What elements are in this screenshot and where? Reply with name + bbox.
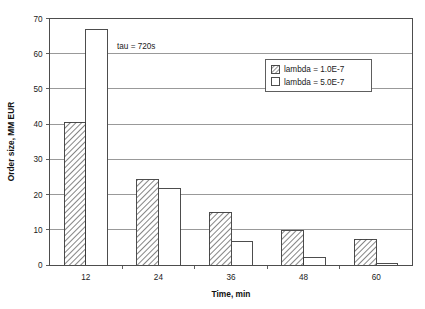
y-tick-label: 70 [33,15,43,24]
y-axis-title: Order size, MM EUR [6,102,16,182]
y-tick-label: 20 [33,191,43,200]
legend: lambda = 1.0E-7 lambda = 5.0E-7 [266,60,372,92]
legend-label-series-1: lambda = 1.0E-7 [284,65,345,74]
bar-series-1 [354,239,376,265]
y-tick-label: 40 [33,120,43,129]
x-tick-label: 24 [154,273,164,282]
x-tick-label: 36 [226,273,236,282]
bar-series-2 [304,258,326,265]
bar-series-2 [86,29,108,265]
chart-container: 0102030405060701224364860Order size, MM … [0,0,425,309]
bar-series-1 [282,231,304,265]
x-axis-title: Time, min [212,289,251,299]
x-tick-label: 48 [299,273,309,282]
bar-series-2 [231,241,253,265]
x-tick-label: 60 [372,273,382,282]
y-tick-label: 10 [33,226,43,235]
tau-annotation-label: tau = 720s [117,42,155,51]
bar-series-1 [209,212,231,265]
y-tick-label: 60 [33,50,43,59]
bar-chart: 0102030405060701224364860Order size, MM … [0,0,425,309]
bar-series-1 [137,180,159,265]
legend-swatch-hatched [271,65,279,73]
y-tick-label: 30 [33,155,43,164]
legend-label-series-2: lambda = 5.0E-7 [284,78,345,87]
bar-series-2 [158,188,180,265]
y-tick-label: 0 [38,261,43,270]
legend-swatch-white [271,78,279,86]
bar-series-1 [64,122,86,265]
y-tick-label: 50 [33,85,43,94]
x-tick-label: 12 [81,273,91,282]
